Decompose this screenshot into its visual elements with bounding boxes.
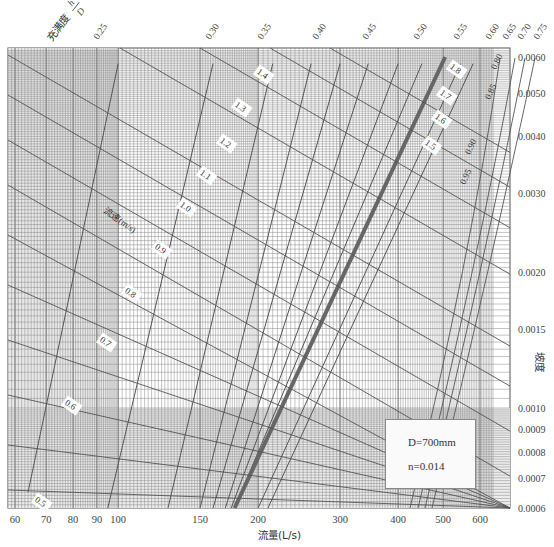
y-tick-label: 0.0030 xyxy=(518,188,546,199)
filling-degree-label: 0.35 xyxy=(255,22,273,42)
y-tick-label: 0.0008 xyxy=(518,447,546,458)
svg-text:h: h xyxy=(66,0,77,8)
roughness-label: n=0.014 xyxy=(408,460,444,472)
filling-degree-label: 0.45 xyxy=(360,22,378,42)
x-axis-title: 流量(L/s) xyxy=(258,529,301,541)
filling-degree-label: 0.65 xyxy=(500,22,518,42)
x-tick-label: 500 xyxy=(435,514,451,525)
filling-degree-label: 0.60 xyxy=(483,22,501,42)
x-tick-label: 70 xyxy=(41,514,52,525)
y-tick-label: 0.0015 xyxy=(518,324,546,335)
y-tick-label: 0.0006 xyxy=(518,503,546,514)
x-tick-label: 200 xyxy=(250,514,266,525)
x-tick-label: 600 xyxy=(472,514,488,525)
x-tick-label: 400 xyxy=(390,514,406,525)
filling-degree-label: 0.40 xyxy=(310,22,328,42)
y-tick-label: 0.0050 xyxy=(518,88,546,99)
filling-degree-label: 0.50 xyxy=(411,22,429,42)
x-tick-label: 60 xyxy=(10,514,21,525)
parameters-box: D=700mm n=0.014 xyxy=(385,419,476,489)
filling-degree-label: 0.55 xyxy=(451,22,469,42)
y-tick-label: 0.0020 xyxy=(518,267,546,278)
y-tick-label: 0.0060 xyxy=(518,52,546,63)
diameter-label: D=700mm xyxy=(408,436,456,448)
y-axis-title: 坡度 xyxy=(534,352,546,373)
filling-degree-label: 0.30 xyxy=(203,22,221,42)
x-tick-label: 300 xyxy=(332,514,348,525)
x-axis-ticks: 60708090100150200300400500600 xyxy=(10,514,488,525)
filling-degree-label: 0.75 xyxy=(531,22,549,42)
filling-degree-label: 0.70 xyxy=(515,22,533,42)
x-tick-label: 80 xyxy=(68,514,79,525)
x-tick-label: 150 xyxy=(192,514,208,525)
y-tick-label: 0.0009 xyxy=(518,424,546,435)
y-tick-label: 0.0040 xyxy=(518,131,546,142)
y-axis-ticks: 0.00600.00500.00400.00300.00200.00150.00… xyxy=(518,52,546,514)
y-tick-label: 0.0007 xyxy=(518,473,546,484)
filling-degree-label: 0.25 xyxy=(91,22,109,42)
filling-degree-title: 充满度 h D xyxy=(41,0,89,48)
svg-text:D: D xyxy=(74,6,87,18)
x-tick-label: 100 xyxy=(110,514,126,525)
svg-text:充满度: 充满度 xyxy=(44,11,73,43)
x-tick-label: 90 xyxy=(92,514,103,525)
y-tick-label: 0.0010 xyxy=(518,403,546,414)
